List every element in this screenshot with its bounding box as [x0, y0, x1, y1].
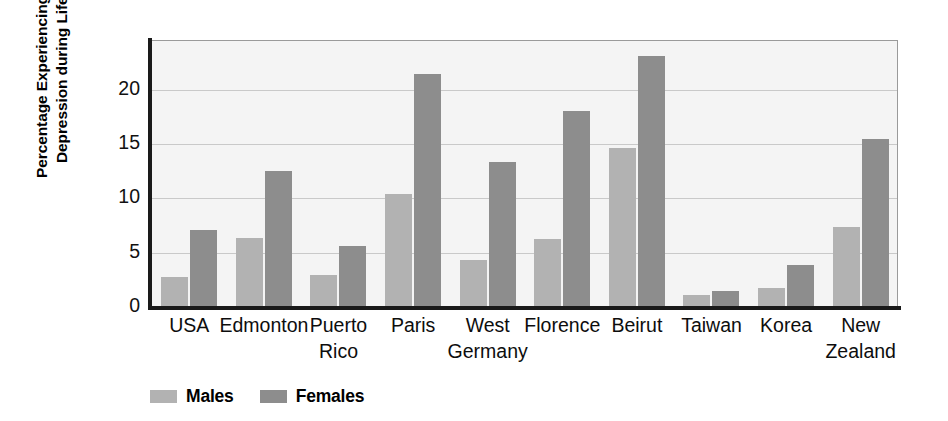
legend-swatch-icon — [260, 390, 287, 403]
bar-group — [152, 40, 227, 306]
x-axis-labels: USAEdmontonPuerto RicoParisWest GermanyF… — [152, 312, 898, 374]
bar-females-puerto-rico — [339, 246, 366, 306]
bar-group — [301, 40, 376, 306]
bar-males-paris — [385, 194, 412, 306]
y-axis-tick-label: 5 — [94, 242, 140, 262]
bar-males-edmonton — [236, 238, 263, 306]
legend: MalesFemales — [150, 386, 364, 407]
bar-females-usa — [190, 230, 217, 306]
bar-females-florence — [563, 111, 590, 306]
bars-layer — [152, 40, 898, 306]
bar-males-puerto-rico — [310, 275, 337, 306]
y-axis-title: Percentage Experiencing Major Depression… — [0, 0, 104, 220]
bar-males-florence — [534, 239, 561, 306]
bar-group — [823, 40, 898, 306]
bar-females-beirut — [638, 56, 665, 306]
legend-label: Males — [186, 386, 234, 407]
x-axis-tick-label: New Zealand — [814, 312, 907, 365]
legend-label: Females — [296, 386, 365, 407]
bar-group — [674, 40, 749, 306]
legend-swatch-icon — [150, 390, 177, 403]
bar-group — [376, 40, 451, 306]
y-axis-tick-label: 15 — [94, 133, 140, 153]
bar-males-beirut — [609, 148, 636, 307]
bar-group — [525, 40, 600, 306]
bar-males-new-zealand — [833, 227, 860, 306]
bar-females-paris — [414, 74, 441, 306]
bar-males-west-germany — [460, 260, 487, 306]
bar-group — [600, 40, 675, 306]
bar-males-usa — [161, 277, 188, 306]
y-axis-tick-label: 20 — [94, 79, 140, 99]
legend-item-males: Males — [150, 386, 234, 407]
bar-females-taiwan — [712, 291, 739, 306]
legend-item-females: Females — [260, 386, 365, 407]
bar-females-new-zealand — [862, 139, 889, 306]
y-axis-tick-label: 10 — [94, 187, 140, 207]
bar-males-taiwan — [683, 295, 710, 306]
bar-group — [450, 40, 525, 306]
bar-females-korea — [787, 265, 814, 306]
bar-females-west-germany — [489, 162, 516, 306]
y-axis-tick-label: 0 — [94, 296, 140, 316]
bar-chart: Percentage Experiencing Major Depression… — [0, 0, 948, 421]
bar-females-edmonton — [265, 171, 292, 306]
bar-group — [749, 40, 824, 306]
x-axis-line — [148, 306, 901, 310]
bar-males-korea — [758, 288, 785, 306]
bar-group — [227, 40, 302, 306]
